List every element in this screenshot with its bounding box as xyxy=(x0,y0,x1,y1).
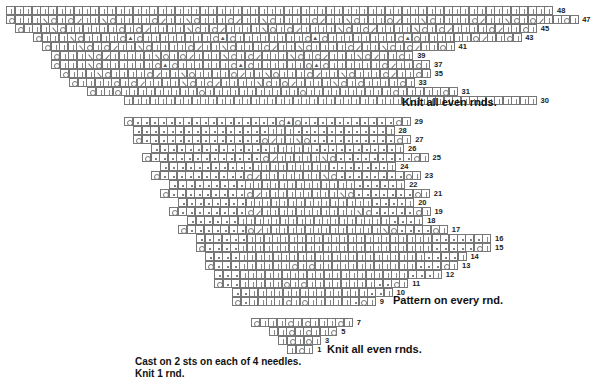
row-number: 9 xyxy=(380,297,384,306)
knit-one-round-instruction: Knit 1 rnd. xyxy=(135,368,184,379)
chart-row-7 xyxy=(252,318,353,327)
chart-row-14 xyxy=(206,252,467,261)
row-number: 29 xyxy=(415,117,423,126)
chart-row-15 xyxy=(197,243,491,252)
knit-icon xyxy=(387,162,396,171)
knit-icon xyxy=(414,216,423,225)
row-number: 1 xyxy=(317,345,321,354)
row-number: 15 xyxy=(495,243,503,252)
chart-row-20 xyxy=(179,198,414,207)
row-number: 17 xyxy=(452,225,460,234)
chart-row-11 xyxy=(215,279,408,288)
knit-icon xyxy=(399,279,408,288)
knit-icon xyxy=(422,69,431,78)
chart-row-27 xyxy=(134,135,411,144)
row-number: 47 xyxy=(582,15,590,24)
chart-row-37 xyxy=(52,60,430,69)
chart-row-16 xyxy=(197,234,491,243)
knit-icon xyxy=(570,15,579,24)
knit-icon xyxy=(482,234,491,243)
knit-icon xyxy=(421,189,430,198)
row-number: 41 xyxy=(459,42,467,51)
chart-row-26 xyxy=(152,144,404,153)
chart-row-23 xyxy=(152,171,421,180)
chart-row-19 xyxy=(170,207,431,216)
knit-icon xyxy=(404,51,413,60)
row-number: 48 xyxy=(557,6,565,15)
row-number: 11 xyxy=(412,279,420,288)
row-number: 22 xyxy=(409,180,417,189)
chart-row-41 xyxy=(43,42,455,51)
knit-icon xyxy=(420,153,429,162)
knit-icon xyxy=(439,225,448,234)
cast-on-instruction: Cast on 2 sts on each of 4 needles. xyxy=(135,356,301,367)
chart-row-43 xyxy=(34,33,522,42)
knit-icon xyxy=(367,297,376,306)
knit-icon xyxy=(528,96,537,105)
chart-row-12 xyxy=(215,270,442,279)
chart-row-5 xyxy=(270,327,337,336)
chart-row-28 xyxy=(134,126,395,135)
knit-icon xyxy=(449,261,458,270)
row-number: 19 xyxy=(434,207,442,216)
knit-icon xyxy=(421,60,430,69)
row-number: 13 xyxy=(462,261,470,270)
row-number: 21 xyxy=(434,189,442,198)
knit-icon xyxy=(482,243,491,252)
row-number: 28 xyxy=(398,126,406,135)
knit-icon xyxy=(384,288,393,297)
chart-row-35 xyxy=(61,69,431,78)
row-number: 14 xyxy=(470,252,478,261)
chart-row-33 xyxy=(70,78,415,87)
chart-row-17 xyxy=(179,225,448,234)
row-number: 5 xyxy=(341,327,345,336)
chart-row-3 xyxy=(279,336,321,345)
bottom-section-note: Knit all even rnds. xyxy=(327,343,422,355)
chart-row-10 xyxy=(233,288,393,297)
chart-row-9 xyxy=(233,297,376,306)
row-number: 7 xyxy=(357,318,361,327)
row-number: 24 xyxy=(400,162,408,171)
row-number: 45 xyxy=(541,24,549,33)
row-number: 26 xyxy=(408,144,416,153)
knit-icon xyxy=(446,42,455,51)
row-number: 30 xyxy=(541,96,549,105)
chart-row-45 xyxy=(16,24,537,33)
row-number: 27 xyxy=(415,135,423,144)
row-number: 16 xyxy=(495,234,503,243)
knit-icon xyxy=(344,318,353,327)
knit-icon xyxy=(449,87,458,96)
chart-row-31 xyxy=(88,87,458,96)
yarn-over-icon xyxy=(328,327,337,336)
row-number: 33 xyxy=(418,78,426,87)
knit-icon xyxy=(433,270,442,279)
knit-icon xyxy=(412,171,421,180)
knit-icon xyxy=(406,78,415,87)
knit-icon xyxy=(402,135,411,144)
chart-row-48 xyxy=(7,6,553,15)
row-number: 35 xyxy=(435,69,443,78)
chart-row-13 xyxy=(206,261,458,270)
top-section-note: Knit all even rnds. xyxy=(402,96,497,108)
chart-row-24 xyxy=(161,162,396,171)
knit-icon xyxy=(402,117,411,126)
row-number: 18 xyxy=(427,216,435,225)
chart-row-1 xyxy=(288,345,313,354)
row-number: 20 xyxy=(418,198,426,207)
knit-icon xyxy=(513,33,522,42)
row-number: 23 xyxy=(425,171,433,180)
chart-row-47 xyxy=(7,15,579,24)
row-number: 25 xyxy=(433,153,441,162)
row-number: 37 xyxy=(434,60,442,69)
chart-row-18 xyxy=(188,216,423,225)
knit-icon xyxy=(458,252,467,261)
knit-icon xyxy=(528,24,537,33)
knit-icon xyxy=(386,126,395,135)
chart-row-22 xyxy=(170,180,405,189)
knit-icon xyxy=(422,207,431,216)
chart-row-21 xyxy=(161,189,430,198)
knit-icon xyxy=(405,198,414,207)
knit-icon xyxy=(395,144,404,153)
row-number: 12 xyxy=(446,270,454,279)
row-number: 31 xyxy=(462,87,470,96)
